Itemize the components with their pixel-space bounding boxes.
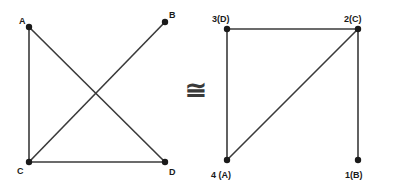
vertex-4a bbox=[224, 157, 230, 163]
left-graph-edges bbox=[29, 22, 165, 162]
vertex-3d bbox=[224, 26, 230, 32]
vertex-a bbox=[26, 24, 32, 30]
figure-root: A B C D ≅ 3(D) 2(C) 4 (A) 1(B) bbox=[0, 0, 393, 189]
vertex-1b bbox=[355, 157, 361, 163]
vertex-b bbox=[162, 19, 168, 25]
vertex-label-c: C bbox=[17, 166, 24, 176]
vertex-label-a: A bbox=[19, 16, 26, 26]
vertex-label-4a: 4 (A) bbox=[211, 170, 231, 180]
vertex-d bbox=[162, 159, 168, 165]
edge-4-2 bbox=[227, 29, 358, 160]
vertex-label-d: D bbox=[169, 167, 176, 177]
vertex-label-3d: 3(D) bbox=[212, 14, 230, 24]
isomorphism-symbol: ≅ bbox=[185, 76, 207, 105]
vertex-c bbox=[26, 159, 32, 165]
vertex-label-b: B bbox=[169, 10, 176, 20]
vertex-label-2c: 2(C) bbox=[344, 14, 362, 24]
right-graph-edges bbox=[227, 29, 358, 160]
vertex-label-1b: 1(B) bbox=[345, 170, 363, 180]
vertex-2c bbox=[355, 26, 361, 32]
diagram-canvas: A B C D ≅ 3(D) 2(C) 4 (A) 1(B) bbox=[0, 0, 393, 189]
right-graph-labels: 3(D) 2(C) 4 (A) 1(B) bbox=[211, 14, 363, 180]
